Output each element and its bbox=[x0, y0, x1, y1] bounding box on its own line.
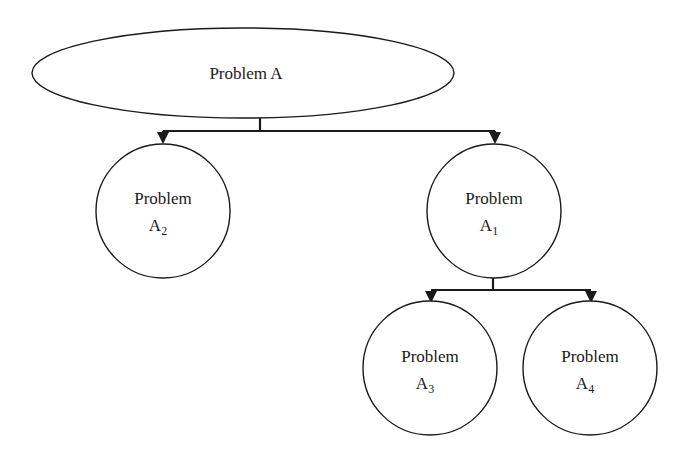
node-problem-a1: Problem A1 bbox=[427, 144, 561, 278]
arrow-down-icon bbox=[489, 132, 501, 144]
node-problem-a4-circle bbox=[523, 301, 657, 435]
arrow-down-icon bbox=[157, 132, 169, 144]
node-problem-a1-sub: 1 bbox=[492, 224, 498, 238]
node-problem-a3-circle bbox=[363, 301, 497, 435]
node-problem-a1-line1: Problem bbox=[465, 189, 523, 208]
node-problem-a3: Problem A3 bbox=[363, 301, 497, 435]
node-problem-a2-line1: Problem bbox=[134, 189, 192, 208]
node-problem-a3-sub: 3 bbox=[428, 382, 434, 396]
node-problem-a2-sub: 2 bbox=[161, 224, 167, 238]
decomposition-diagram: Problem A Problem A2 Problem A1 Problem … bbox=[0, 0, 688, 455]
node-problem-a4-line1: Problem bbox=[561, 347, 619, 366]
node-problem-a-label: Problem A bbox=[209, 64, 283, 83]
node-problem-a4-sub: 4 bbox=[588, 382, 594, 396]
connector-root bbox=[157, 118, 501, 144]
node-problem-a4: Problem A4 bbox=[523, 301, 657, 435]
node-problem-a2: Problem A2 bbox=[96, 144, 230, 278]
node-problem-a3-main: A bbox=[416, 374, 429, 393]
node-problem-a1-circle bbox=[427, 144, 561, 278]
node-problem-a: Problem A bbox=[32, 28, 454, 118]
node-problem-a2-circle bbox=[96, 144, 230, 278]
node-problem-a1-main: A bbox=[480, 216, 493, 235]
node-problem-a3-line1: Problem bbox=[401, 347, 459, 366]
node-problem-a4-main: A bbox=[576, 374, 589, 393]
node-problem-a2-main: A bbox=[149, 216, 162, 235]
connector-a1 bbox=[425, 278, 597, 303]
